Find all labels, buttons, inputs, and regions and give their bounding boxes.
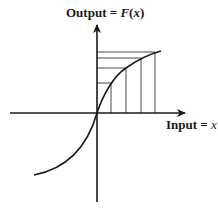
y-label-prefix: Output =: [66, 5, 120, 20]
x-axis-label: Input = x: [166, 117, 217, 133]
y-label-paren-close: ): [140, 5, 144, 20]
y-axis-label: Output = F(x): [66, 5, 144, 21]
projection-lines: [97, 52, 155, 113]
function-graph: [0, 0, 218, 211]
y-label-func: F: [120, 5, 129, 20]
x-label-prefix: Input =: [166, 117, 211, 132]
x-label-var: x: [211, 117, 217, 132]
